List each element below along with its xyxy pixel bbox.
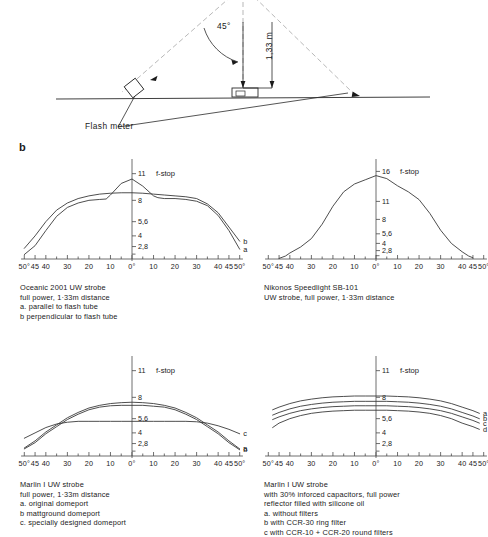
- x-tick-label: 20: [415, 459, 423, 468]
- y-tick-label: 11: [382, 366, 389, 375]
- x-tick-label: 50°: [19, 262, 30, 271]
- x-tick-label: 50°: [234, 262, 245, 271]
- x-tick-label: 50°: [19, 459, 30, 468]
- x-tick-label: 40: [458, 262, 466, 271]
- x-tick-label: 50°: [263, 262, 274, 271]
- x-tick-label: 50°: [478, 262, 488, 271]
- x-tick-label: 10: [350, 262, 358, 271]
- x-tick-label: 45: [31, 459, 39, 468]
- y-tick-label: 16: [382, 167, 390, 176]
- x-tick-label: 40: [214, 459, 222, 468]
- y-tick-label: 2,8: [382, 246, 392, 255]
- chart-oceanic-2001: 50°45403020100°102030404550°1185,642,8f-…: [19, 159, 249, 321]
- chart-caption-line: c with CCR-10 + CCR-20 round filters: [264, 528, 393, 537]
- chart-caption-line: Marlin I UW strobe: [20, 480, 84, 489]
- x-tick-label: 45: [275, 459, 283, 468]
- x-tick-label: 30: [192, 262, 200, 271]
- x-tick-label: 0°: [372, 262, 379, 271]
- y-tick-label: 2,8: [138, 439, 148, 448]
- chart-caption-line: Nikonos Speedlight SB-101: [264, 283, 358, 292]
- chart-caption-line: b with CCR-30 ring filter: [264, 518, 347, 527]
- x-tick-label: 45: [275, 262, 283, 271]
- x-tick-label: 20: [329, 262, 337, 271]
- x-tick-label: 10: [393, 459, 401, 468]
- x-tick-label: 20: [171, 262, 179, 271]
- y-tick-label: 8: [382, 215, 386, 224]
- x-tick-label: 45: [469, 262, 477, 271]
- y-tick-label: 5,6: [138, 217, 148, 226]
- x-tick-label: 20: [415, 262, 423, 271]
- y-axis-title: f-stop: [400, 167, 419, 176]
- x-tick-label: 30: [307, 262, 315, 271]
- chart-marlin-i-domeports: 50°45403020100°102030404550°1185,642,8f-…: [19, 356, 249, 527]
- chart-caption-line: b perpendicular to flash tube: [20, 312, 118, 321]
- panel-letter: b: [19, 141, 26, 153]
- x-tick-label: 40: [42, 459, 50, 468]
- x-tick-label: 30: [436, 459, 444, 468]
- y-tick-label: 11: [138, 169, 145, 178]
- chart-caption-line: b mattground domeport: [20, 509, 100, 518]
- y-tick-label: 11: [382, 197, 389, 206]
- x-tick-label: 50°: [263, 459, 274, 468]
- y-tick-label: 2,8: [382, 439, 392, 448]
- curve-label-c: c: [243, 429, 247, 438]
- curve-label-a: a: [243, 245, 248, 254]
- y-tick-label: 8: [138, 393, 142, 402]
- chart-caption-line: full power, 1·33m distance: [20, 490, 110, 499]
- x-tick-label: 0°: [372, 459, 379, 468]
- arrowhead-left: [241, 81, 246, 88]
- x-tick-label: 45: [469, 459, 477, 468]
- x-tick-label: 40: [286, 459, 294, 468]
- x-tick-label: 20: [171, 459, 179, 468]
- x-tick-label: 10: [149, 459, 157, 468]
- x-tick-label: 40: [214, 262, 222, 271]
- chart-caption-line: a. parallel to flash tube: [20, 302, 98, 311]
- x-tick-label: 10: [106, 459, 114, 468]
- x-tick-label: 20: [329, 459, 337, 468]
- x-tick-label: 30: [192, 459, 200, 468]
- y-tick-label: 11: [138, 366, 145, 375]
- y-tick-label: 5,6: [382, 229, 392, 238]
- x-tick-label: 10: [106, 262, 114, 271]
- x-tick-label: 10: [149, 262, 157, 271]
- x-tick-label: 45: [225, 459, 233, 468]
- y-tick-label: 5,6: [382, 414, 392, 423]
- y-tick-label: 8: [138, 196, 142, 205]
- chart-caption-line: UW strobe, full power, 1·33m distance: [264, 293, 394, 302]
- y-axis-title: f-stop: [400, 366, 419, 375]
- angle-label: 45°: [217, 21, 231, 31]
- x-tick-label: 30: [436, 262, 444, 271]
- curve-label-b: b: [243, 445, 247, 454]
- x-tick-label: 30: [63, 262, 71, 271]
- x-tick-label: 10: [393, 262, 401, 271]
- y-tick-label: 4: [382, 428, 386, 437]
- strobe-housing-icon: [232, 88, 258, 97]
- x-tick-label: 45: [31, 262, 39, 271]
- x-tick-label: 40: [458, 459, 466, 468]
- curve-label-b: b: [243, 237, 247, 246]
- setup-diagram: 45° 1,33 m Flash meter: [56, 0, 430, 131]
- flash-meter-label: Flash meter: [85, 121, 134, 131]
- arrowhead-meter: [150, 76, 158, 81]
- y-axis-title: f-stop: [156, 366, 175, 375]
- y-tick-label: 2,8: [138, 242, 148, 251]
- chart-caption-line: Oceanic 2001 UW strobe: [20, 283, 106, 292]
- curve-label-d: d: [483, 425, 487, 434]
- arrowhead-far-right: [352, 91, 360, 97]
- beam-left-dashed: [122, 0, 243, 92]
- x-tick-label: 20: [85, 262, 93, 271]
- x-tick-label: 50°: [478, 459, 488, 468]
- figure-svg: 45° 1,33 m Flash meter b 50°45403020100°…: [0, 0, 488, 537]
- x-tick-label: 30: [63, 459, 71, 468]
- chart-marlin-i-filters: 50°45403020100°102030404550°1185,642,8f-…: [263, 356, 488, 537]
- x-tick-label: 45: [225, 262, 233, 271]
- y-tick-label: 5,6: [138, 414, 148, 423]
- chart-caption-line: Marlin I UW strobe: [264, 480, 328, 489]
- x-tick-label: 50°: [234, 459, 245, 468]
- chart-caption-line: a. original domeport: [20, 499, 88, 508]
- x-tick-label: 40: [42, 262, 50, 271]
- y-tick-label: 4: [138, 428, 142, 437]
- y-tick-label: 4: [138, 231, 142, 240]
- chart-caption-line: reflector filled with silicone oil: [264, 499, 365, 508]
- figure-root: 45° 1,33 m Flash meter b 50°45403020100°…: [0, 0, 488, 537]
